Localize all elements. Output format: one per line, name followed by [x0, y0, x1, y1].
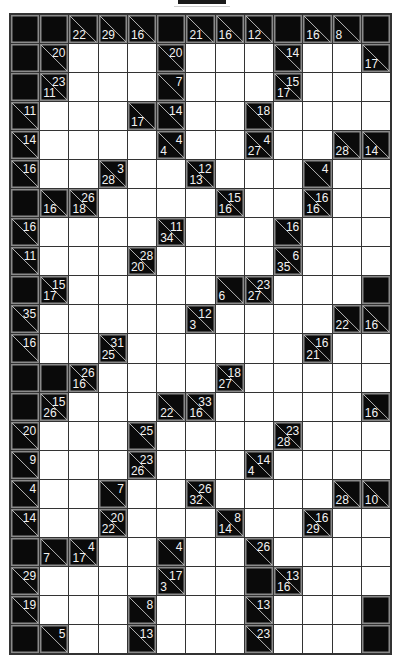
- entry-cell[interactable]: [303, 596, 331, 624]
- entry-cell[interactable]: [274, 276, 302, 304]
- entry-cell[interactable]: [216, 160, 244, 188]
- entry-cell[interactable]: [99, 596, 127, 624]
- entry-cell[interactable]: [216, 247, 244, 275]
- entry-cell[interactable]: [99, 276, 127, 304]
- entry-cell[interactable]: [186, 247, 214, 275]
- entry-cell[interactable]: [333, 247, 361, 275]
- entry-cell[interactable]: [362, 364, 390, 392]
- entry-cell[interactable]: [362, 160, 390, 188]
- entry-cell[interactable]: [157, 334, 185, 362]
- entry-cell[interactable]: [128, 189, 156, 217]
- entry-cell[interactable]: [157, 480, 185, 508]
- entry-cell[interactable]: [40, 218, 68, 246]
- entry-cell[interactable]: [186, 218, 214, 246]
- entry-cell[interactable]: [216, 73, 244, 101]
- entry-cell[interactable]: [186, 364, 214, 392]
- entry-cell[interactable]: [245, 305, 273, 333]
- entry-cell[interactable]: [69, 218, 97, 246]
- entry-cell[interactable]: [216, 538, 244, 566]
- entry-cell[interactable]: [303, 102, 331, 130]
- entry-cell[interactable]: [216, 44, 244, 72]
- entry-cell[interactable]: [274, 131, 302, 159]
- entry-cell[interactable]: [303, 364, 331, 392]
- entry-cell[interactable]: [157, 422, 185, 450]
- entry-cell[interactable]: [274, 189, 302, 217]
- entry-cell[interactable]: [274, 102, 302, 130]
- entry-cell[interactable]: [128, 276, 156, 304]
- entry-cell[interactable]: [362, 422, 390, 450]
- entry-cell[interactable]: [362, 538, 390, 566]
- entry-cell[interactable]: [274, 305, 302, 333]
- entry-cell[interactable]: [216, 451, 244, 479]
- entry-cell[interactable]: [157, 364, 185, 392]
- entry-cell[interactable]: [245, 334, 273, 362]
- entry-cell[interactable]: [69, 160, 97, 188]
- entry-cell[interactable]: [186, 73, 214, 101]
- entry-cell[interactable]: [333, 189, 361, 217]
- entry-cell[interactable]: [128, 480, 156, 508]
- entry-cell[interactable]: [362, 509, 390, 537]
- entry-cell[interactable]: [274, 451, 302, 479]
- entry-cell[interactable]: [69, 451, 97, 479]
- entry-cell[interactable]: [333, 596, 361, 624]
- entry-cell[interactable]: [69, 305, 97, 333]
- entry-cell[interactable]: [157, 189, 185, 217]
- entry-cell[interactable]: [69, 44, 97, 72]
- entry-cell[interactable]: [245, 247, 273, 275]
- entry-cell[interactable]: [274, 480, 302, 508]
- entry-cell[interactable]: [245, 422, 273, 450]
- entry-cell[interactable]: [40, 131, 68, 159]
- entry-cell[interactable]: [99, 567, 127, 595]
- entry-cell[interactable]: [128, 393, 156, 421]
- entry-cell[interactable]: [186, 625, 214, 653]
- entry-cell[interactable]: [99, 44, 127, 72]
- entry-cell[interactable]: [40, 160, 68, 188]
- entry-cell[interactable]: [274, 160, 302, 188]
- entry-cell[interactable]: [157, 509, 185, 537]
- entry-cell[interactable]: [40, 596, 68, 624]
- entry-cell[interactable]: [274, 393, 302, 421]
- entry-cell[interactable]: [157, 276, 185, 304]
- entry-cell[interactable]: [69, 509, 97, 537]
- entry-cell[interactable]: [303, 44, 331, 72]
- entry-cell[interactable]: [216, 480, 244, 508]
- entry-cell[interactable]: [40, 567, 68, 595]
- entry-cell[interactable]: [99, 305, 127, 333]
- entry-cell[interactable]: [303, 567, 331, 595]
- entry-cell[interactable]: [333, 625, 361, 653]
- entry-cell[interactable]: [99, 247, 127, 275]
- entry-cell[interactable]: [245, 218, 273, 246]
- entry-cell[interactable]: [69, 596, 97, 624]
- entry-cell[interactable]: [69, 480, 97, 508]
- entry-cell[interactable]: [186, 189, 214, 217]
- entry-cell[interactable]: [40, 102, 68, 130]
- entry-cell[interactable]: [69, 247, 97, 275]
- entry-cell[interactable]: [157, 247, 185, 275]
- entry-cell[interactable]: [216, 625, 244, 653]
- entry-cell[interactable]: [128, 160, 156, 188]
- entry-cell[interactable]: [333, 218, 361, 246]
- entry-cell[interactable]: [157, 305, 185, 333]
- entry-cell[interactable]: [303, 131, 331, 159]
- entry-cell[interactable]: [128, 334, 156, 362]
- entry-cell[interactable]: [333, 509, 361, 537]
- entry-cell[interactable]: [40, 334, 68, 362]
- entry-cell[interactable]: [216, 567, 244, 595]
- entry-cell[interactable]: [186, 451, 214, 479]
- entry-cell[interactable]: [333, 160, 361, 188]
- entry-cell[interactable]: [303, 538, 331, 566]
- entry-cell[interactable]: [274, 538, 302, 566]
- entry-cell[interactable]: [99, 538, 127, 566]
- entry-cell[interactable]: [362, 73, 390, 101]
- entry-cell[interactable]: [40, 247, 68, 275]
- entry-cell[interactable]: [333, 44, 361, 72]
- entry-cell[interactable]: [186, 422, 214, 450]
- entry-cell[interactable]: [245, 364, 273, 392]
- entry-cell[interactable]: [128, 44, 156, 72]
- entry-cell[interactable]: [303, 625, 331, 653]
- entry-cell[interactable]: [40, 305, 68, 333]
- entry-cell[interactable]: [69, 334, 97, 362]
- entry-cell[interactable]: [216, 393, 244, 421]
- entry-cell[interactable]: [186, 276, 214, 304]
- entry-cell[interactable]: [245, 160, 273, 188]
